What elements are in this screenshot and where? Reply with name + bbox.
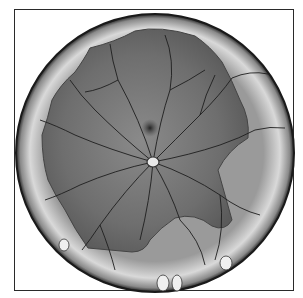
optic-disc [147,157,159,167]
fundus-illustration [0,0,303,298]
macula [141,119,159,137]
